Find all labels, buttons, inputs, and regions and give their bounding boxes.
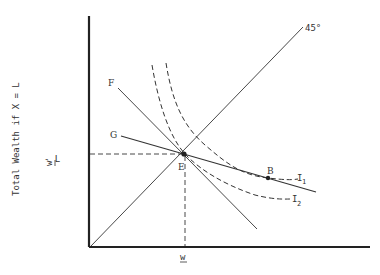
label-b: B [267, 166, 274, 176]
wealth-diagram: F G E B 45° I 1 I 2 w w - L Total Wealth… [0, 0, 380, 275]
line-g [121, 136, 316, 192]
label-angle: 45° [305, 23, 321, 33]
y-axis-title: Total Wealth if X = L [11, 82, 21, 196]
y-tick-rest: - L [44, 154, 60, 164]
line-f [118, 88, 257, 229]
x-tick-label: w [180, 252, 186, 262]
label-f: F [108, 78, 114, 88]
label-g: G [110, 130, 117, 140]
point-b [266, 176, 270, 180]
label-e: E [178, 162, 185, 172]
indifference-curve-i1 [166, 63, 298, 180]
label-i1-subscript: 1 [302, 178, 306, 186]
point-e [181, 151, 186, 156]
label-i2-subscript: 2 [297, 200, 301, 208]
